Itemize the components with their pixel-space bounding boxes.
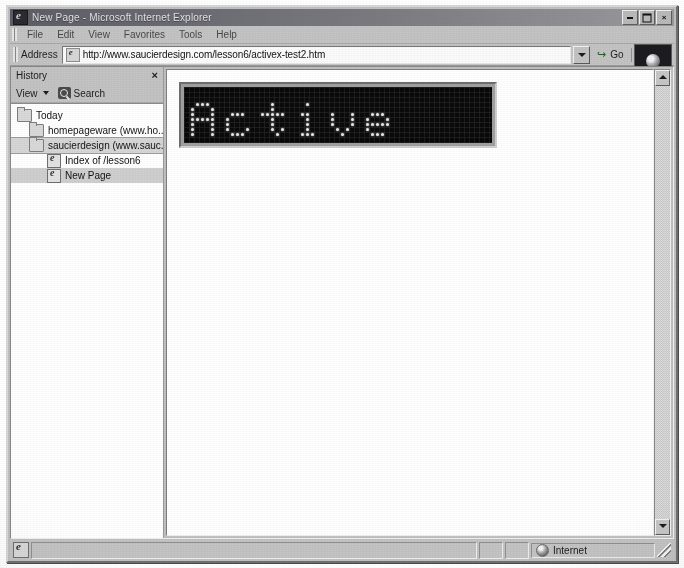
search-icon[interactable] <box>58 87 71 99</box>
scanned-screenshot: New Page - Microsoft Internet Explorer ×… <box>0 0 684 568</box>
document-area <box>164 67 673 538</box>
status-page-icon <box>13 542 29 558</box>
menu-item-tools[interactable]: Tools <box>172 28 209 41</box>
page-favicon-icon <box>66 48 80 62</box>
history-item-label: Index of /lesson6 <box>65 155 141 166</box>
minimize-button[interactable] <box>622 10 638 25</box>
history-tree-item-homepageware[interactable]: homepageware (www.ho... <box>11 123 163 138</box>
history-search-button[interactable]: Search <box>74 88 106 99</box>
address-bar: Address http://www.saucierdesign.com/les… <box>10 44 674 66</box>
title-bar: New Page - Microsoft Internet Explorer × <box>10 9 674 26</box>
close-button[interactable]: × <box>656 10 672 25</box>
history-close-icon[interactable]: × <box>150 70 160 81</box>
security-zone-label: Internet <box>553 545 587 556</box>
address-dropdown-button[interactable] <box>573 46 590 64</box>
history-header: History × <box>11 67 163 84</box>
history-tree-item-today[interactable]: Today <box>11 108 163 123</box>
history-item-label: Today <box>36 110 63 121</box>
address-url-text[interactable]: http://www.saucierdesign.com/lesson6/act… <box>83 49 326 60</box>
menu-item-edit[interactable]: Edit <box>50 28 81 41</box>
history-view-button[interactable]: View <box>16 88 38 99</box>
status-pane-2 <box>505 542 529 559</box>
menu-item-favorites[interactable]: Favorites <box>117 28 172 41</box>
folder-icon <box>29 124 44 137</box>
browser-window: New Page - Microsoft Internet Explorer ×… <box>6 5 678 563</box>
menu-item-help[interactable]: Help <box>209 28 244 41</box>
web-page-canvas[interactable] <box>166 69 654 536</box>
window-title: New Page - Microsoft Internet Explorer <box>32 12 212 23</box>
scroll-down-icon[interactable] <box>655 519 670 535</box>
folder-icon <box>29 139 44 152</box>
history-tree-item-new-page[interactable]: New Page <box>11 168 163 183</box>
menu-drag-grip[interactable] <box>12 28 17 41</box>
history-toolbar: View Search <box>11 84 163 103</box>
history-tree-item-saucierdesign[interactable]: saucierdesign (www.sauc... <box>11 138 163 153</box>
go-arrow-icon: ↪ <box>597 49 608 60</box>
scroll-up-icon[interactable] <box>655 70 670 86</box>
globe-icon <box>536 544 549 557</box>
chevron-down-icon[interactable] <box>43 91 49 95</box>
scrollbar-track[interactable] <box>655 86 670 519</box>
activex-led-marquee[interactable] <box>179 82 497 148</box>
ie-document-icon <box>13 10 28 25</box>
resize-grip[interactable] <box>657 543 671 557</box>
menu-item-file[interactable]: File <box>20 28 50 41</box>
history-item-label: homepageware (www.ho... <box>48 125 163 136</box>
status-message <box>31 542 477 559</box>
folder-icon <box>17 109 32 122</box>
go-button[interactable]: ↪ Go <box>593 48 627 61</box>
page-icon <box>47 169 61 183</box>
client-area: History × View Search Today <box>10 66 674 539</box>
history-tree[interactable]: Today homepageware (www.ho... saucierdes… <box>11 103 163 538</box>
document-scrollbar[interactable] <box>654 69 671 536</box>
history-item-label: New Page <box>65 170 111 181</box>
address-label: Address <box>21 49 58 60</box>
status-bar: Internet <box>10 540 674 560</box>
menu-bar: File Edit View Favorites Tools Help <box>10 26 674 44</box>
menu-item-view[interactable]: View <box>81 28 117 41</box>
security-zone-indicator[interactable]: Internet <box>531 543 655 558</box>
maximize-button[interactable] <box>639 10 655 25</box>
page-icon <box>47 154 61 168</box>
window-controls: × <box>622 10 674 25</box>
address-drag-grip[interactable] <box>13 47 18 62</box>
led-marquee-text <box>190 93 400 128</box>
go-label: Go <box>610 49 623 60</box>
led-display <box>184 87 492 143</box>
led-row <box>190 123 400 128</box>
status-pane-1 <box>479 542 503 559</box>
history-item-label: saucierdesign (www.sauc... <box>48 140 163 151</box>
address-input[interactable]: http://www.saucierdesign.com/lesson6/act… <box>62 46 572 64</box>
toolbar-separator <box>631 48 632 62</box>
history-title: History <box>16 70 47 81</box>
history-tree-item-index-of-lesson6[interactable]: Index of /lesson6 <box>11 153 163 168</box>
history-panel: History × View Search Today <box>11 67 164 538</box>
